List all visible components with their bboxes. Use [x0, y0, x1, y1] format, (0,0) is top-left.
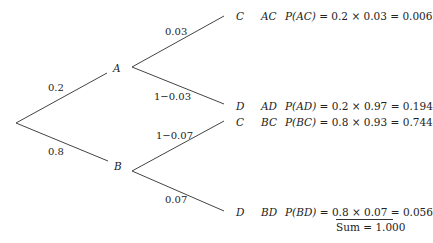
- event: AC: [261, 11, 277, 22]
- branch-root-a: [16, 73, 107, 123]
- label-a-d: 1−0.03: [154, 92, 191, 102]
- branch-b-c: [132, 121, 224, 171]
- event: BC: [261, 117, 277, 128]
- label-b-c: 1−0.07: [156, 131, 193, 141]
- node-b: B: [114, 161, 122, 172]
- label-a-c: 0.03: [165, 27, 187, 37]
- probability: P(BD) = 0.8 × 0.07 = 0.056: [285, 207, 433, 218]
- event: AD: [261, 101, 277, 112]
- branch-a-c: [132, 16, 224, 67]
- label-b-d: 0.07: [165, 195, 187, 205]
- event: BD: [261, 207, 277, 218]
- probability: P(AD) = 0.2 × 0.97 = 0.194: [285, 101, 433, 112]
- node-a: A: [113, 63, 121, 74]
- probability: P(AC) = 0.2 × 0.03 = 0.006: [285, 11, 432, 22]
- sum-total: Sum = 1.000: [336, 219, 393, 233]
- label-root-a: 0.2: [48, 83, 64, 93]
- branch-b-d: [132, 171, 224, 211]
- leaf-d: D: [236, 101, 244, 112]
- leaf-c: C: [236, 11, 244, 22]
- leaf-c: C: [236, 117, 244, 128]
- probability: P(BC) = 0.8 × 0.93 = 0.744: [285, 117, 433, 128]
- leaf-d: D: [236, 207, 244, 218]
- label-root-b: 0.8: [48, 147, 64, 157]
